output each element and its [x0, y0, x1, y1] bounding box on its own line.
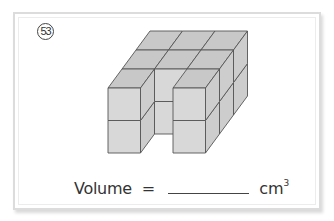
unit-exponent: 3: [284, 178, 290, 188]
cube-front-face: [108, 121, 141, 154]
cube-front-face: [173, 121, 206, 154]
answer-blank[interactable]: [168, 179, 249, 194]
volume-formula: Volume = cm3: [74, 179, 289, 199]
equals-sign: =: [142, 179, 155, 198]
volume-label: Volume: [74, 179, 132, 198]
unit-text: cm: [259, 179, 283, 198]
unit-label: cm3: [259, 179, 289, 198]
cube-front-face: [108, 88, 141, 121]
cube-front-face: [173, 88, 206, 121]
